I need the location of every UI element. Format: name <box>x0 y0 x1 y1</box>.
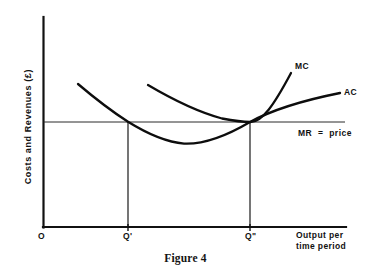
figure-caption: Figure 4 <box>0 252 371 264</box>
x-tick-label-q-prime: Q' <box>123 231 132 242</box>
economics-figure: Costs and Revenues (£) Output per time p… <box>0 0 371 274</box>
y-axis-title: Costs and Revenues (£) <box>23 52 34 202</box>
x-tick-label-q-double-prime: Q" <box>245 231 256 242</box>
origin-label: O <box>38 231 45 242</box>
x-axis-title: Output per time period <box>296 230 346 251</box>
mc-curve-label: MC <box>295 61 309 72</box>
ac-curve-label: AC <box>344 87 357 98</box>
mr-price-label: MR = price <box>298 128 352 139</box>
mc-curve <box>148 73 291 122</box>
